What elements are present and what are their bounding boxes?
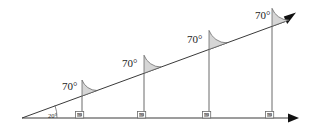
vertex-angle-label: 20°	[48, 112, 58, 119]
geometry-diagram: 20° 70° 70° 70° 70° 90 90 90 90	[0, 0, 312, 130]
right-angle-label-4: 90	[268, 113, 272, 117]
right-angle-label-1: 90	[78, 113, 82, 117]
transversal-arrowhead-icon	[284, 12, 296, 24]
angle-label-2: 70°	[122, 57, 137, 69]
right-angle-label-3: 90	[205, 113, 209, 117]
angle-label-1: 70°	[62, 80, 77, 92]
geometry-canvas: 20° 70° 70° 70° 70° 90 90 90 90	[0, 0, 312, 130]
baseline-arrowhead-icon	[288, 114, 299, 123]
angle-label-3: 70°	[187, 33, 202, 45]
right-angle-label-2: 90	[140, 113, 144, 117]
angle-sector-1	[82, 80, 97, 96]
angle-label-4: 70°	[255, 9, 270, 21]
